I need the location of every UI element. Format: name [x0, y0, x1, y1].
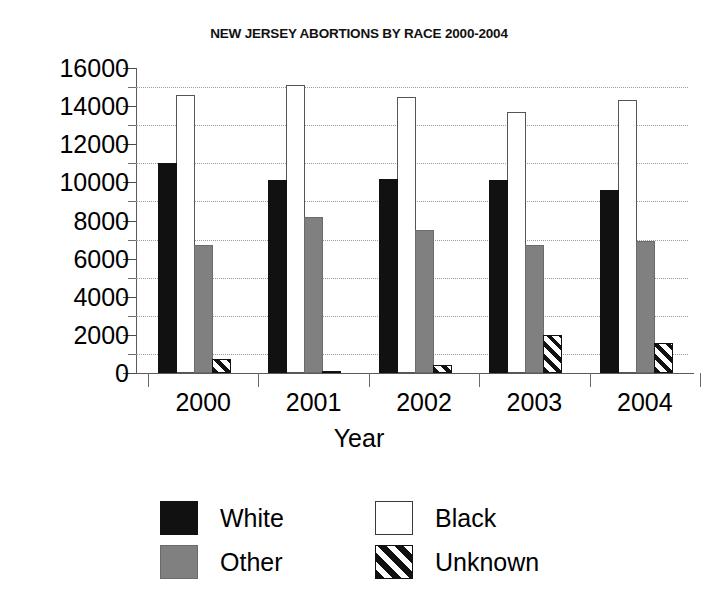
chart-root: NEW JERSEY ABORTIONS BY RACE 2000-2004 0…: [0, 0, 718, 596]
bar-group-2000: [136, 68, 246, 373]
bar-unknown-2002[interactable]: [433, 365, 452, 373]
legend-item-other[interactable]: Other: [160, 545, 375, 579]
legend-item-black[interactable]: Black: [375, 501, 590, 535]
y-tick-label: 14000: [59, 94, 129, 119]
bars-layer: [136, 68, 688, 373]
legend-row: White Black: [160, 496, 590, 540]
y-tick-label: 0: [115, 361, 129, 386]
x-tick-label-2001: 2001: [286, 390, 342, 415]
x-tick-mark: [590, 373, 591, 387]
y-tick-label: 2000: [73, 322, 129, 347]
bar-white-2000[interactable]: [158, 163, 177, 373]
legend-label-unknown: Unknown: [435, 550, 539, 575]
y-tick-label: 12000: [59, 132, 129, 157]
y-tick-label: 6000: [73, 246, 129, 271]
y-tick-mark-minor: [128, 163, 136, 164]
legend-row: Other Unknown: [160, 540, 590, 584]
bar-black-2004[interactable]: [618, 100, 637, 373]
x-tick-mark: [369, 373, 370, 387]
bar-unknown-2000[interactable]: [212, 359, 231, 373]
plot-area: 0200040006000800010000120001400016000: [136, 68, 688, 373]
chart-title: NEW JERSEY ABORTIONS BY RACE 2000-2004: [0, 26, 718, 41]
bar-white-2003[interactable]: [489, 180, 508, 373]
y-tick-mark-minor: [128, 125, 136, 126]
y-tick-label: 10000: [59, 170, 129, 195]
y-tick-label: 16000: [59, 56, 129, 81]
legend-label-other: Other: [220, 550, 283, 575]
bar-white-2001[interactable]: [268, 180, 287, 373]
y-tick-mark-minor: [128, 354, 136, 355]
legend-label-white: White: [220, 506, 284, 531]
bar-unknown-2001[interactable]: [322, 371, 341, 373]
y-tick-mark-minor: [128, 240, 136, 241]
x-axis-line: [136, 373, 694, 374]
x-tick-mark: [258, 373, 259, 387]
bar-group-2002: [357, 68, 467, 373]
y-tick-mark-minor: [128, 278, 136, 279]
legend-label-black: Black: [435, 506, 496, 531]
bar-white-2004[interactable]: [600, 190, 619, 373]
bar-other-2001[interactable]: [304, 217, 323, 373]
bar-group-2004: [578, 68, 688, 373]
bar-black-2003[interactable]: [507, 112, 526, 373]
bar-other-2003[interactable]: [525, 245, 544, 373]
legend-swatch-black-icon: [375, 501, 413, 535]
x-axis-title: Year: [0, 424, 718, 453]
legend-item-white[interactable]: White: [160, 501, 375, 535]
x-tick-label-2002: 2002: [396, 390, 452, 415]
x-tick-label-2000: 2000: [175, 390, 231, 415]
y-tick-label: 8000: [73, 208, 129, 233]
x-tick-mark: [479, 373, 480, 387]
y-tick-mark-minor: [128, 87, 136, 88]
y-tick-mark-minor: [128, 201, 136, 202]
x-tick-mark: [700, 373, 701, 387]
bar-black-2001[interactable]: [286, 85, 305, 373]
y-tick-label: 4000: [73, 284, 129, 309]
bar-other-2000[interactable]: [194, 245, 213, 373]
legend-swatch-other-icon: [160, 545, 198, 579]
bar-black-2002[interactable]: [397, 97, 416, 373]
legend: White Black Other Unknown: [160, 496, 590, 584]
legend-swatch-white-icon: [160, 501, 198, 535]
bar-other-2004[interactable]: [636, 241, 655, 373]
legend-swatch-unknown-icon: [375, 545, 413, 579]
x-tick-label-2004: 2004: [617, 390, 673, 415]
bar-unknown-2004[interactable]: [654, 343, 673, 374]
bar-white-2002[interactable]: [379, 179, 398, 373]
bar-unknown-2003[interactable]: [543, 335, 562, 373]
x-tick-label-2003: 2003: [507, 390, 563, 415]
bar-group-2001: [246, 68, 356, 373]
bar-group-2003: [467, 68, 577, 373]
y-tick-mark-minor: [128, 316, 136, 317]
x-tick-mark: [148, 373, 149, 387]
legend-item-unknown[interactable]: Unknown: [375, 545, 590, 579]
bar-black-2000[interactable]: [176, 95, 195, 373]
bar-other-2002[interactable]: [415, 230, 434, 373]
